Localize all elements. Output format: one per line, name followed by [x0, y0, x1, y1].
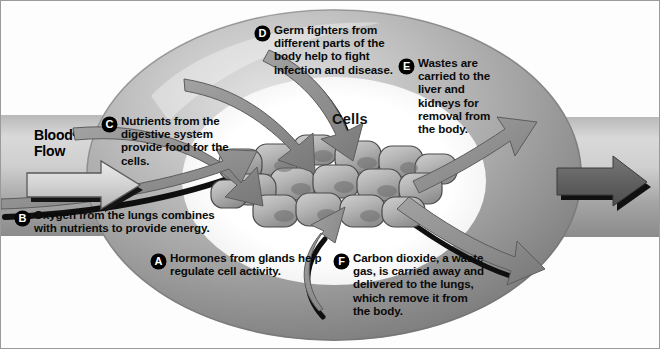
cell-shadow	[400, 162, 418, 174]
callout-a: A Hormones from glands help regulate cel…	[151, 251, 336, 277]
cell-shadow	[334, 181, 354, 193]
callout-badge-f: F	[334, 254, 349, 269]
callout-badge-b: B	[15, 211, 30, 226]
callout-text-b: Oxygen from the lungs combines with nutr…	[34, 208, 230, 234]
callout-f: F Carbon dioxide, a waste gas, is carrie…	[334, 251, 484, 317]
callout-text-a: Hormones from glands help regulate cell …	[170, 251, 336, 277]
callout-badge-c: C	[102, 117, 117, 132]
callout-d: D Germ fighters from different parts of …	[255, 23, 405, 76]
cell-shadow	[313, 150, 333, 162]
cell-shadow	[360, 210, 380, 222]
callout-badge-d: D	[255, 26, 270, 41]
callout-badge-a: A	[151, 254, 166, 269]
callout-text-f: Carbon dioxide, a waste gas, is carried …	[353, 251, 484, 317]
blood-flow-label-line2: Flow	[34, 144, 73, 160]
callout-c: C Nutrients from the digestive system pr…	[102, 114, 232, 167]
cell-shadow	[357, 157, 377, 169]
callout-b: B Oxygen from the lungs combines with nu…	[15, 208, 230, 234]
cells-label: Cells	[332, 111, 368, 127]
callout-text-e: Wastes are carried to the liver and kidn…	[418, 56, 504, 135]
cell-shadow	[291, 183, 311, 195]
cell	[340, 195, 385, 227]
callout-text-c: Nutrients from the digestive system prov…	[121, 114, 232, 167]
blood-flow-label-line1: Blood	[34, 128, 73, 144]
cell-shadow	[274, 210, 294, 222]
callout-badge-e: E	[399, 59, 414, 74]
diagram-canvas: Blood Flow Cells D Germ fighters from di…	[0, 0, 660, 349]
blood-flow-label: Blood Flow	[34, 128, 73, 160]
callout-text-d: Germ fighters from different parts of th…	[274, 23, 405, 76]
cell-shadow	[377, 185, 397, 197]
callout-e: E Wastes are carried to the liver and ki…	[399, 56, 504, 135]
